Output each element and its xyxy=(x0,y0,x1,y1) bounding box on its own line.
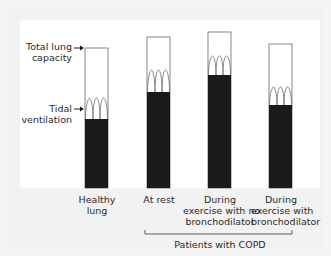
label-line: Healthy xyxy=(66,194,128,205)
label-total-lung-capacity: Total lung capacity xyxy=(18,41,72,63)
label-line: During xyxy=(183,194,257,205)
bar-label-exercise-with-bronchodilator: During exercise with bronchodilator xyxy=(251,194,311,227)
bar-label-healthy-lung: Healthy lung xyxy=(66,194,128,216)
bar-at-rest xyxy=(147,37,170,188)
label-line: bronchodilator xyxy=(251,216,311,227)
copd-group-bracket xyxy=(145,230,292,234)
label-line: bronchodilator xyxy=(183,216,257,227)
label-line: Tidal xyxy=(14,103,72,114)
arrow-total-lung-capacity-icon xyxy=(74,46,84,51)
label-line: ventilation xyxy=(14,114,72,125)
bar-healthy-lung xyxy=(85,48,108,188)
bar-label-at-rest: At rest xyxy=(128,194,190,205)
label-line: At rest xyxy=(128,194,190,205)
label-tidal-ventilation: Tidal ventilation xyxy=(14,103,72,125)
label-line: exercise with no xyxy=(183,205,257,216)
label-line: During xyxy=(251,194,311,205)
label-line: Total lung xyxy=(18,41,72,52)
label-line: capacity xyxy=(18,52,72,63)
label-line: exercise with xyxy=(251,205,311,216)
group-label-patients-with-copd: Patients with COPD xyxy=(170,239,270,250)
bar-label-exercise-no-bronchodilator: During exercise with no bronchodilator xyxy=(183,194,257,227)
bar-exercise-no-bronchodilator xyxy=(208,32,231,188)
arrow-tidal-ventilation-icon xyxy=(74,107,84,112)
label-line: lung xyxy=(66,205,128,216)
bar-exercise-with-bronchodilator xyxy=(269,44,292,188)
